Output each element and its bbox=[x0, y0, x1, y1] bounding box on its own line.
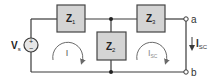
impedance-z2: Z2 bbox=[97, 32, 126, 60]
junction-bottom bbox=[109, 70, 113, 74]
isc-label: ISC bbox=[196, 38, 208, 50]
terminal-a-label: a bbox=[191, 14, 197, 25]
source-label-subscript: s bbox=[18, 46, 21, 52]
loop-i-label: I bbox=[66, 48, 69, 58]
source-plus-sign: + bbox=[29, 38, 33, 45]
voltage-source: + − Vs bbox=[11, 38, 38, 52]
loop-isc-label-subscript: SC bbox=[151, 53, 158, 59]
isc-label-subscript: SC bbox=[199, 44, 208, 50]
loop-isc: ISC bbox=[137, 42, 167, 62]
short-circuit-current: ISC bbox=[192, 37, 208, 50]
source-label: Vs bbox=[11, 40, 21, 52]
loop-i: I bbox=[53, 42, 83, 62]
circuit-diagram: a b + − Vs Z1 Z2 Z3 I ISC ISC bbox=[0, 0, 214, 82]
impedance-z3: Z3 bbox=[137, 5, 165, 32]
terminal-b-label: b bbox=[191, 67, 197, 78]
loop-isc-label: ISC bbox=[148, 48, 158, 59]
junction-top bbox=[109, 17, 113, 21]
source-minus-sign: − bbox=[29, 45, 33, 52]
impedance-z1: Z1 bbox=[57, 5, 85, 32]
